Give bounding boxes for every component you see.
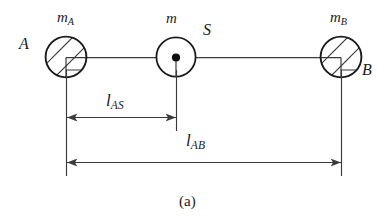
label-point-a: A — [19, 36, 29, 52]
label-dim-l-ab: lAB — [186, 132, 205, 152]
label-point-b: B — [362, 62, 372, 78]
figure-caption: (a) — [179, 193, 196, 210]
figure-container: mA m mB A S B lAS lAB (a) — [0, 0, 390, 222]
label-mass-a-subscript: A — [68, 16, 74, 27]
label-mass-b-base: m — [330, 9, 341, 25]
extension-lines — [67, 70, 342, 176]
diagram-canvas — [0, 0, 390, 222]
label-mass-center-base: m — [166, 10, 177, 26]
label-dim-l-as-subscript: AS — [111, 99, 124, 112]
center-of-mass-dot — [172, 53, 180, 61]
label-point-s: S — [203, 22, 211, 38]
label-mass-a: mA — [57, 10, 74, 27]
label-mass-b: mB — [330, 10, 347, 27]
label-mass-a-base: m — [57, 9, 68, 25]
label-mass-b-subscript: B — [341, 16, 347, 27]
label-mass-center: m — [166, 11, 177, 26]
label-dim-l-as: lAS — [106, 92, 124, 112]
label-dim-l-ab-subscript: AB — [191, 139, 206, 152]
